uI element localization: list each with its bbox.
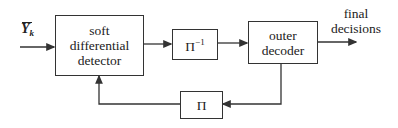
final-decisions-label: final decisions (325, 6, 387, 36)
detector-label-line2: differential (70, 38, 130, 53)
output-label-line1: final (325, 6, 387, 21)
decoder-label-line1: outer (262, 28, 305, 43)
input-signal-label: Yk (21, 21, 34, 38)
overbar (22, 22, 32, 23)
soft-differential-detector-block: soft differential detector (55, 15, 144, 76)
interleaver-block: Π (180, 91, 223, 119)
deinterleaver-block: Π−1 (172, 29, 218, 60)
decoder-to-interleaver-arrow (223, 63, 281, 104)
interleaver-to-detector-arrow (99, 76, 180, 104)
input-subscript: k (30, 28, 35, 38)
outer-decoder-block: outer decoder (248, 21, 318, 64)
deinterleaver-exponent: −1 (195, 37, 205, 47)
output-label-line2: decisions (325, 21, 387, 36)
detector-label-line1: soft (70, 23, 130, 38)
decoder-label-line2: decoder (262, 43, 305, 58)
interleaver-symbol: Π (197, 98, 207, 113)
deinterleaver-symbol: Π (185, 39, 195, 54)
input-symbol: Y (21, 21, 30, 36)
detector-label-line3: detector (70, 53, 130, 68)
